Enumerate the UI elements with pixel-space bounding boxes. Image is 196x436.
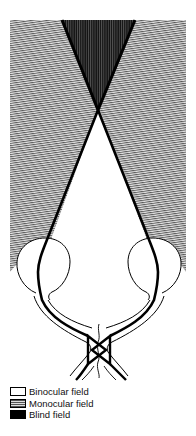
- legend-item-blind: Blind field: [10, 409, 93, 421]
- blind-swatch-icon: [10, 410, 26, 419]
- legend-label: Monocular field: [29, 398, 93, 409]
- visual-field-diagram: [0, 0, 196, 436]
- legend-item-monocular: Monocular field: [10, 398, 93, 410]
- right-optic-nerve-outline: [107, 296, 164, 376]
- legend-label: Blind field: [29, 409, 70, 420]
- left-optic-nerve-outline: [34, 296, 91, 376]
- legend-label: Binocular field: [29, 386, 89, 397]
- right-eye-outline: [128, 238, 181, 300]
- midline: [97, 324, 99, 378]
- binocular-swatch-icon: [10, 387, 26, 396]
- legend: Binocular field Monocular field Blind fi…: [10, 386, 93, 421]
- monocular-swatch-icon: [10, 399, 26, 408]
- legend-item-binocular: Binocular field: [10, 386, 93, 398]
- optic-tract-right: [110, 364, 126, 380]
- left-optic-nerve-inner: [48, 300, 92, 328]
